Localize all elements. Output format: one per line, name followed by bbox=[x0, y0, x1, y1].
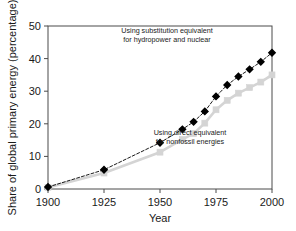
x-axis-tick-label: 1900 bbox=[36, 196, 60, 208]
y-axis-tick-label: 20 bbox=[29, 118, 41, 130]
data-point-marker bbox=[157, 149, 163, 155]
data-point-marker bbox=[235, 90, 241, 96]
chart-figure: 0102030405019001925195019752000YearShare… bbox=[0, 0, 296, 231]
y-axis-title: Share of global primary energy (percenta… bbox=[6, 0, 18, 215]
annotation-substitution-note: Using substitution equivalent bbox=[121, 26, 213, 35]
data-point-marker bbox=[269, 72, 275, 78]
x-axis-tick-label: 1950 bbox=[148, 196, 172, 208]
y-axis-tick-label: 30 bbox=[29, 85, 41, 97]
energy-share-line-chart: 0102030405019001925195019752000YearShare… bbox=[0, 0, 296, 231]
y-axis-tick-label: 50 bbox=[29, 20, 41, 32]
x-axis-title: Year bbox=[149, 212, 172, 224]
x-axis-tick-label: 2000 bbox=[260, 196, 284, 208]
y-axis-tick-label: 40 bbox=[29, 53, 41, 65]
data-point-marker bbox=[224, 97, 230, 103]
data-point-marker bbox=[258, 59, 264, 65]
x-axis-tick-label: 1925 bbox=[92, 196, 116, 208]
annotation-direct-note: Using direct equivalent bbox=[154, 128, 227, 137]
data-point-marker bbox=[213, 107, 219, 113]
data-point-marker bbox=[202, 120, 208, 126]
data-point-marker bbox=[246, 66, 252, 72]
data-point-marker bbox=[190, 119, 196, 125]
y-axis-tick-label: 0 bbox=[35, 183, 41, 195]
annotation-substitution-note: for hydropower and nuclear bbox=[123, 35, 211, 44]
data-point-marker bbox=[247, 85, 253, 91]
x-axis-tick-label: 1975 bbox=[204, 196, 228, 208]
annotation-direct-note: for nonfossil energies bbox=[156, 137, 225, 146]
data-point-marker bbox=[258, 79, 264, 85]
plot-frame bbox=[48, 26, 272, 189]
y-axis-tick-label: 10 bbox=[29, 150, 41, 162]
